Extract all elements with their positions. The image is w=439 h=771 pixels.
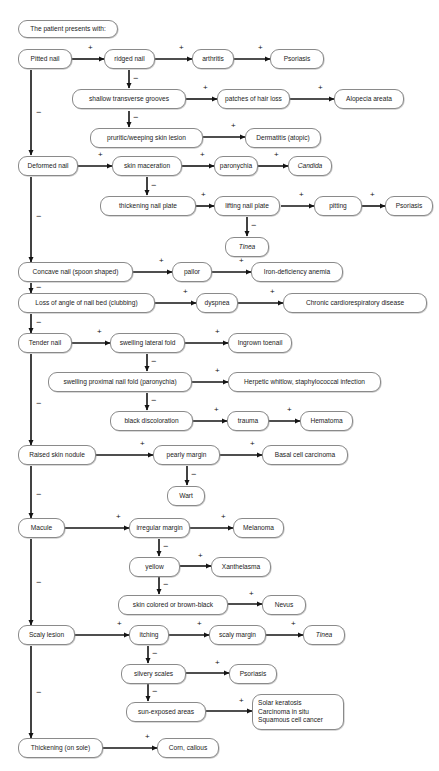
node-arthritis[interactable]: arthritis <box>192 49 234 69</box>
edge-sign-plus: + <box>200 151 205 159</box>
node-alopecia-areata[interactable]: Alopecia areata <box>334 89 404 109</box>
node-psoriasis-2[interactable]: Psoriasis <box>385 196 433 216</box>
edge-sign-plus: + <box>88 44 93 52</box>
edge-sign-minus: − <box>151 396 156 405</box>
edge-sign-plus: + <box>198 552 203 560</box>
edge-sign-minus: − <box>152 649 157 658</box>
edge-sign-minus: − <box>151 357 156 366</box>
edge-sign-minus: − <box>151 181 156 190</box>
node-pearly-margin[interactable]: pearly margin <box>153 445 220 465</box>
node-macule[interactable]: Macule <box>18 518 65 538</box>
node-pruritic-weeping-skin-lesion[interactable]: pruritic/weeping skin lesion <box>90 128 203 148</box>
node-wart[interactable]: Wart <box>167 486 205 506</box>
node-irregular-margin[interactable]: irregular margin <box>129 518 190 538</box>
edge-sign-minus: − <box>36 399 41 408</box>
edge-sign-plus: + <box>250 440 255 448</box>
node-iron-deficiency-anemia[interactable]: Iron-deficiency anemia <box>251 262 343 282</box>
node-pitted-nail[interactable]: Pitted nail <box>18 49 72 69</box>
edge-sign-plus: + <box>231 122 236 130</box>
node-black-discoloration[interactable]: black discoloration <box>110 411 193 431</box>
solar-group-line-2: Carcinoma in situ <box>258 708 338 717</box>
node-thickening-on-sole[interactable]: Thickening (on sole) <box>18 738 103 758</box>
node-ingrown-toenail[interactable]: Ingrown toenail <box>228 333 292 353</box>
node-patches-of-hair-loss[interactable]: patches of hair loss <box>217 89 290 109</box>
edge-sign-plus: + <box>239 257 244 265</box>
edge-sign-plus: + <box>239 697 244 705</box>
node-yellow[interactable]: yellow <box>129 557 180 577</box>
node-psoriasis-3[interactable]: Psoriasis <box>229 664 277 684</box>
node-clubbing[interactable]: Loss of angle of nail bed (clubbing) <box>18 293 155 313</box>
edge-sign-plus: + <box>318 84 323 92</box>
edge-sign-minus: − <box>163 580 168 589</box>
node-basal-cell-carcinoma[interactable]: Basal cell carcinoma <box>262 445 348 465</box>
node-skin-maceration[interactable]: skin maceration <box>112 156 182 176</box>
edge-sign-plus: + <box>203 84 208 92</box>
edge-sign-plus: + <box>291 620 296 628</box>
node-nevus[interactable]: Nevus <box>262 595 306 615</box>
node-scaly-margin[interactable]: scaly margin <box>209 625 266 645</box>
edge-sign-minus: − <box>133 113 138 122</box>
node-herpetic-whitlow[interactable]: Herpetic whitlow, staphylococcal infecti… <box>228 372 381 392</box>
node-paronychia[interactable]: paronychia <box>214 156 258 176</box>
node-lifting-nail-plate[interactable]: lifting nail plate <box>214 196 280 216</box>
node-hematoma[interactable]: Hematoma <box>300 411 353 431</box>
node-scaly-lesion[interactable]: Scaly lesion <box>18 625 75 645</box>
node-skin-colored-or-brown-black[interactable]: skin colored or brown-black <box>118 595 228 615</box>
node-pitting[interactable]: pitting <box>314 196 362 216</box>
edge-sign-plus: + <box>215 367 220 375</box>
edge-sign-plus: + <box>287 406 292 414</box>
node-dermatitis-atopic[interactable]: Dermatitis (atopic) <box>245 128 321 148</box>
edge-sign-minus: − <box>36 490 41 499</box>
edge-sign-plus: + <box>299 191 304 199</box>
edge-sign-plus: + <box>183 288 188 296</box>
node-itching[interactable]: itching <box>129 625 169 645</box>
node-xanthelasma[interactable]: Xanthelasma <box>211 557 271 577</box>
node-psoriasis-1[interactable]: Psoriasis <box>270 49 324 69</box>
edge-sign-plus: + <box>117 620 122 628</box>
solar-group-line-3: Squamous cell cancer <box>258 716 338 725</box>
node-deformed-nail[interactable]: Deformed nail <box>18 156 78 176</box>
node-trauma[interactable]: trauma <box>227 411 269 431</box>
edge-sign-minus: − <box>152 687 157 696</box>
node-pallor[interactable]: pallor <box>172 262 212 282</box>
node-chronic-cardiorespiratory-disease[interactable]: Chronic cardiorespiratory disease <box>283 293 427 313</box>
node-raised-skin-nodule[interactable]: Raised skin nodule <box>18 445 96 465</box>
edge-sign-minus: − <box>36 688 41 697</box>
edge-sign-minus: − <box>133 74 138 83</box>
node-tender-nail[interactable]: Tender nail <box>18 333 72 353</box>
edge-sign-plus: + <box>214 406 219 414</box>
edge-sign-minus: − <box>251 221 256 230</box>
node-dyspnea[interactable]: dyspnea <box>196 293 238 313</box>
node-tinea-1[interactable]: Tinea <box>225 237 269 257</box>
edge-sign-minus: − <box>36 318 41 327</box>
node-sun-exposed-areas[interactable]: sun-exposed areas <box>126 702 206 722</box>
edge-sign-plus: + <box>145 733 150 741</box>
node-melanoma[interactable]: Melanoma <box>233 518 284 538</box>
edge-sign-plus: + <box>97 328 102 336</box>
node-tinea-2[interactable]: Tinea <box>303 625 345 645</box>
node-concave-nail[interactable]: Concave nail (spoon shaped) <box>18 262 133 282</box>
edge-sign-plus: + <box>140 440 145 448</box>
edge-sign-plus: + <box>370 191 375 199</box>
edge-sign-plus: + <box>258 44 263 52</box>
node-solar-keratosis-group[interactable]: Solar keratosis Carcinoma in situ Squamo… <box>252 694 344 730</box>
node-header: The patient presents with: <box>18 20 118 38</box>
flowchart-canvas: The patient presents with: Pitted nail r… <box>0 0 439 771</box>
edge-sign-plus: + <box>201 191 206 199</box>
node-thickening-nail-plate[interactable]: thickening nail plate <box>100 196 196 216</box>
edge-sign-plus: + <box>221 513 226 521</box>
edge-sign-minus: − <box>163 542 168 551</box>
node-ridged-nail[interactable]: ridged nail <box>104 49 155 69</box>
solar-group-line-1: Solar keratosis <box>258 699 338 708</box>
edge-sign-plus: + <box>197 620 202 628</box>
node-shallow-transverse-grooves[interactable]: shallow transverse grooves <box>72 89 186 109</box>
edge-sign-plus: + <box>270 288 275 296</box>
node-silvery-scales[interactable]: silvery scales <box>121 664 186 684</box>
node-swelling-lateral-fold[interactable]: swelling lateral fold <box>110 333 185 353</box>
edge-sign-plus: + <box>215 328 220 336</box>
edge-sign-minus: − <box>36 578 41 587</box>
node-swelling-proximal-nail-fold[interactable]: swelling proximal nail fold (paronychia) <box>48 372 192 392</box>
edge-sign-plus: + <box>249 590 254 598</box>
node-corn-callous[interactable]: Corn, callous <box>157 738 219 758</box>
node-candida[interactable]: Candida <box>288 156 332 176</box>
